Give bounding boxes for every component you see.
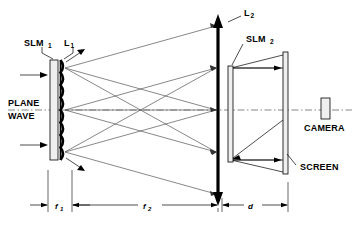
lens2-label-base: L <box>244 8 250 18</box>
lens1-label-sub: 1 <box>71 42 75 49</box>
slm1-panel <box>50 60 58 160</box>
ray-bundle-screen-to-slm2 <box>232 120 283 160</box>
slm2-label-base: SLM <box>246 34 266 44</box>
dimension-f1: f 1 <box>30 202 90 212</box>
ray-arrowheads-l2 <box>210 23 217 196</box>
plane-wave-label-line1: PLANE <box>8 98 40 108</box>
plane-wave-label-line2: WAVE <box>8 111 35 121</box>
d-dim-base: d <box>248 202 254 211</box>
diagram-canvas: SLM 1 L 1 L 2 SLM 2 PLANE WAVE CAMERA SC… <box>0 0 358 230</box>
label-lens1: L 1 <box>64 38 75 49</box>
camera-label: CAMERA <box>304 123 345 133</box>
camera-body <box>321 98 330 119</box>
lens1-label-base: L <box>64 38 70 48</box>
screen-ray-arrowheads <box>274 66 282 163</box>
f2-dim-sub: 2 <box>147 206 152 212</box>
slm1-label-base: SLM <box>24 38 44 48</box>
f2-dim-base: f <box>143 202 147 211</box>
slm2-label-sub: 2 <box>270 38 274 45</box>
dimension-f2: f 2 <box>73 202 218 212</box>
dimension-d: d <box>222 202 288 211</box>
screen-panel <box>283 52 288 174</box>
ray-bundle-l1-to-l2 <box>65 26 216 194</box>
lens2-label-sub: 2 <box>251 12 255 19</box>
f1-dim-base: f <box>55 202 59 211</box>
optical-diagram: SLM 1 L 1 L 2 SLM 2 PLANE WAVE CAMERA SC… <box>0 0 358 230</box>
label-plane-wave: PLANE WAVE <box>8 98 40 121</box>
slm1-label-sub: 1 <box>48 42 52 49</box>
label-slm2: SLM 2 <box>246 34 274 45</box>
label-slm1: SLM 1 <box>24 38 52 49</box>
slm2-panel <box>228 66 233 162</box>
f1-dim-sub: 1 <box>60 206 64 212</box>
screen-label: SCREEN <box>300 162 339 172</box>
label-lens2: L 2 <box>244 8 255 19</box>
ray-bundle-slm2-to-screen <box>231 55 283 172</box>
